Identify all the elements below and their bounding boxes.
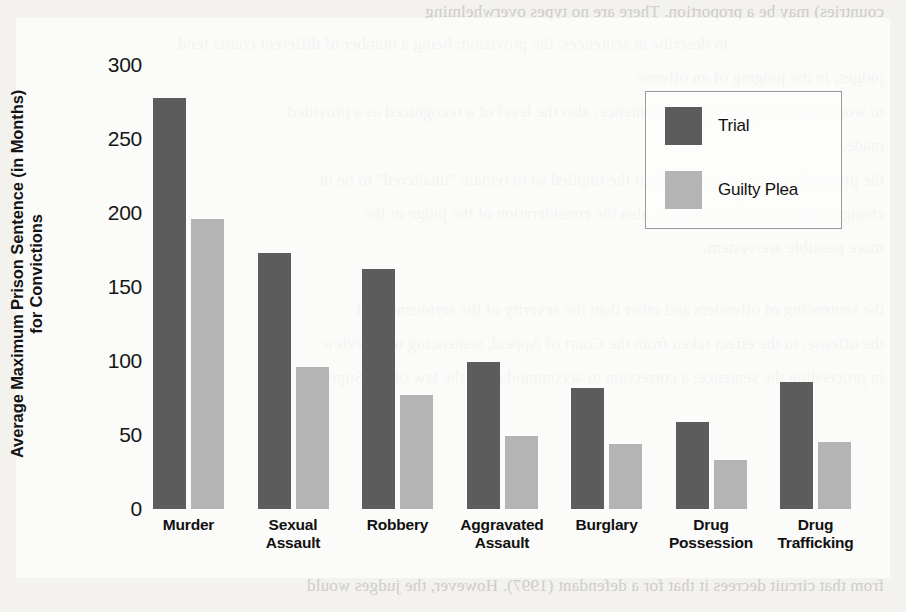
legend-label-trial: Trial	[718, 116, 749, 136]
legend-swatch-guilty-plea	[665, 171, 702, 209]
x-axis-label: DrugTrafficking	[753, 516, 878, 553]
bar-trial	[571, 388, 604, 509]
x-axis-label-line2: Assault	[231, 534, 356, 552]
x-axis-label-line1: Drug	[753, 516, 878, 534]
bar-guilty-plea	[296, 367, 329, 509]
bar-trial	[780, 382, 813, 509]
bar-guilty-plea	[400, 395, 433, 509]
bar-guilty-plea	[191, 219, 224, 509]
legend-swatch-trial	[665, 107, 702, 145]
x-axis-label-line2: Trafficking	[753, 534, 878, 552]
legend-item-trial: Trial	[665, 107, 749, 145]
bar-chart: Average Maximum Prison Sentence (in Mont…	[0, 0, 906, 612]
bar-guilty-plea	[609, 444, 642, 509]
bar-trial	[467, 362, 500, 509]
bar-trial	[153, 98, 186, 509]
legend-label-guilty-plea: Guilty Plea	[718, 180, 798, 200]
x-axis-label-line2: Assault	[440, 534, 565, 552]
legend-item-guilty-plea: Guilty Plea	[665, 171, 798, 209]
bar-guilty-plea	[714, 460, 747, 509]
bar-guilty-plea	[818, 442, 851, 509]
bar-guilty-plea	[505, 436, 538, 509]
bar-trial	[258, 253, 291, 509]
bar-trial	[362, 269, 395, 509]
bar-trial	[676, 422, 709, 509]
legend: Trial Guilty Plea	[645, 91, 842, 229]
